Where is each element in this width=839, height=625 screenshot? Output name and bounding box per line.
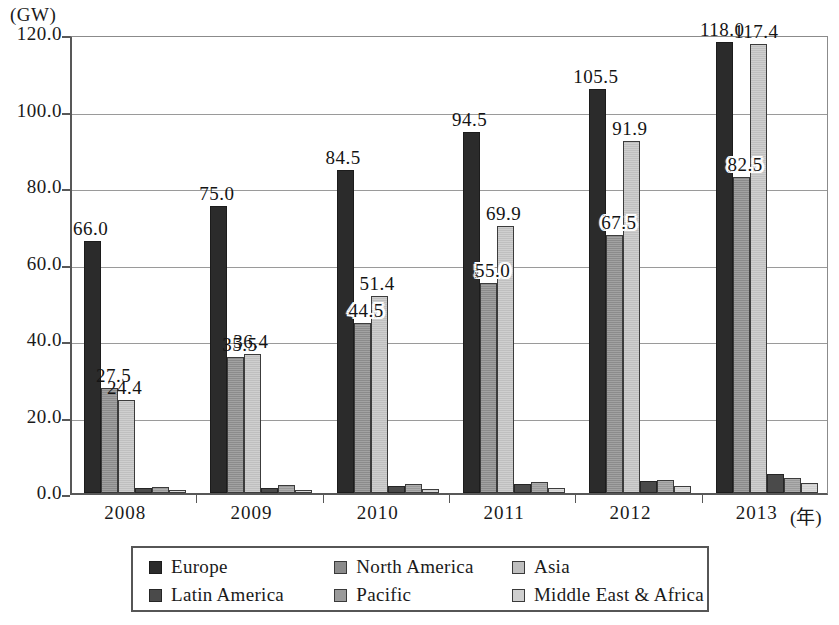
legend-swatch-icon	[334, 589, 347, 602]
gridline	[72, 190, 827, 191]
x-axis-tick-label: 2013	[736, 502, 778, 524]
legend-swatch-icon	[149, 561, 162, 574]
bar-latin-america-2012	[640, 481, 657, 493]
legend-label: North America	[356, 556, 473, 578]
bar-pacific-2012	[657, 480, 674, 493]
legend-item-europe[interactable]: Europe	[149, 556, 334, 578]
y-axis-tick-mark	[62, 113, 70, 115]
bar-latin-america-2010	[388, 486, 405, 493]
bar-middle-east-africa-2010	[422, 489, 439, 493]
bar-north-america-2009	[227, 357, 244, 493]
data-label: 67.5	[601, 212, 636, 234]
bar-pacific-2010	[405, 484, 422, 493]
bar-pacific-2013	[784, 478, 801, 493]
y-axis-tick-label: 100.0	[0, 100, 62, 122]
gridline	[72, 267, 827, 268]
bar-north-america-2013	[733, 177, 750, 493]
y-axis-tick-mark	[62, 419, 70, 421]
bar-asia-2012	[623, 141, 640, 493]
x-axis-tick-label: 2012	[610, 502, 652, 524]
bar-middle-east-africa-2009	[295, 490, 312, 493]
x-axis-tick-label: 2010	[357, 502, 399, 524]
y-axis-tick-mark	[62, 342, 70, 344]
data-label: 91.9	[612, 118, 647, 140]
data-label: 69.9	[486, 203, 521, 225]
data-label: 84.5	[326, 147, 361, 169]
y-axis-tick-label: 60.0	[0, 253, 62, 275]
bar-middle-east-africa-2012	[674, 486, 691, 493]
legend-item-pacific[interactable]: Pacific	[334, 584, 512, 606]
y-axis-tick-mark	[62, 495, 70, 497]
legend-swatch-icon	[149, 589, 162, 602]
x-axis-tick-mark	[323, 495, 324, 503]
legend-item-middle-east-africa[interactable]: Middle East & Africa	[512, 584, 707, 606]
x-axis-tick-mark	[196, 495, 197, 503]
data-label: 117.4	[734, 21, 779, 43]
gridline	[72, 343, 827, 344]
legend-row: Latin AmericaPacificMiddle East & Africa	[149, 581, 707, 609]
bar-pacific-2011	[531, 482, 548, 493]
plot-area	[70, 36, 828, 495]
x-axis-tick-mark	[449, 495, 450, 503]
legend-label: Middle East & Africa	[534, 584, 704, 606]
bar-pacific-2009	[278, 485, 295, 493]
x-axis-tick-label: 2009	[231, 502, 273, 524]
y-axis-tick-label: 80.0	[0, 176, 62, 198]
bar-asia-2009	[244, 354, 261, 493]
bar-north-america-2008	[101, 388, 118, 493]
legend-item-latin-america[interactable]: Latin America	[149, 584, 334, 606]
legend-item-asia[interactable]: Asia	[512, 556, 707, 578]
data-label: 51.4	[360, 273, 395, 295]
x-axis-tick-label: 2008	[104, 502, 146, 524]
data-label: 82.5	[728, 154, 763, 176]
legend-label: Latin America	[171, 584, 284, 606]
y-axis-tick-label: 120.0	[0, 23, 62, 45]
bar-europe-2011	[463, 132, 480, 493]
bar-latin-america-2013	[767, 474, 784, 493]
bar-asia-2010	[371, 296, 388, 493]
bar-north-america-2011	[480, 283, 497, 493]
y-axis: 0.020.040.060.080.0100.0120.0	[0, 0, 70, 625]
x-axis-tick-mark	[575, 495, 576, 503]
x-axis-unit-label: (年)	[790, 502, 822, 529]
gridline	[72, 114, 827, 115]
legend-row: EuropeNorth AmericaAsia	[149, 553, 707, 581]
bar-latin-america-2008	[135, 488, 152, 493]
y-axis-tick-label: 40.0	[0, 329, 62, 351]
data-label: 44.5	[349, 300, 384, 322]
y-axis-tick-mark	[62, 36, 70, 38]
legend-swatch-icon	[512, 589, 525, 602]
bar-asia-2008	[118, 400, 135, 493]
data-label: 94.5	[452, 109, 487, 131]
bar-pacific-2008	[152, 487, 169, 493]
bar-middle-east-africa-2008	[169, 490, 186, 493]
legend-label: Asia	[534, 556, 570, 578]
y-axis-tick-label: 20.0	[0, 406, 62, 428]
legend-label: Pacific	[356, 584, 411, 606]
y-axis-tick-mark	[62, 266, 70, 268]
bar-middle-east-africa-2013	[801, 483, 818, 493]
data-label: 66.0	[73, 218, 108, 240]
legend: EuropeNorth AmericaAsiaLatin AmericaPaci…	[131, 546, 709, 612]
x-axis-tick-label: 2011	[484, 502, 525, 524]
data-label: 55.0	[475, 260, 510, 282]
legend-swatch-icon	[512, 561, 525, 574]
bar-latin-america-2011	[514, 484, 531, 493]
data-label: 24.4	[107, 377, 142, 399]
bar-europe-2013	[716, 42, 733, 493]
bar-middle-east-africa-2011	[548, 488, 565, 493]
bar-chart: (GW) 0.020.040.060.080.0100.0120.0 (年) E…	[0, 0, 839, 625]
x-axis-tick-mark	[702, 495, 703, 503]
data-label: 105.5	[573, 66, 618, 88]
gridline	[72, 420, 827, 421]
legend-item-north-america[interactable]: North America	[334, 556, 512, 578]
legend-swatch-icon	[334, 561, 347, 574]
bar-asia-2013	[750, 44, 767, 493]
legend-label: Europe	[171, 556, 228, 578]
data-label: 36.4	[233, 331, 268, 353]
bar-europe-2012	[589, 89, 606, 493]
y-axis-tick-mark	[62, 189, 70, 191]
bar-north-america-2012	[606, 235, 623, 493]
data-label: 75.0	[199, 183, 234, 205]
bar-latin-america-2009	[261, 488, 278, 493]
